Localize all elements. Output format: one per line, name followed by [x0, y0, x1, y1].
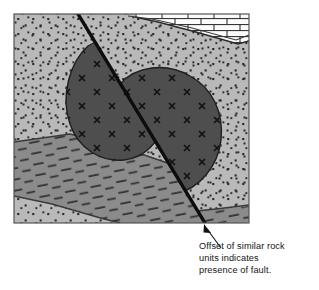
caption-line-3: presence of fault. [199, 264, 317, 276]
leader-arrowhead [204, 224, 212, 233]
caption-line-2: units indicates [199, 252, 317, 264]
caption: Offset of similar rock units indicates p… [199, 240, 317, 277]
caption-line-1: Offset of similar rock [199, 240, 317, 252]
block-diagram-body [14, 14, 249, 223]
geology-diagram: Offset of similar rock units indicates p… [0, 0, 319, 290]
